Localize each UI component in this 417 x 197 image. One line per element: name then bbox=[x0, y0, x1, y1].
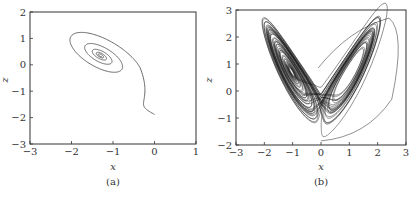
y-tick-label: −1 bbox=[11, 86, 26, 97]
x-tick-label: −2 bbox=[64, 146, 79, 157]
ticks-a: −3−2−101−3−2−1012 bbox=[11, 7, 199, 158]
x-tick-label: 2 bbox=[374, 147, 380, 158]
caption-b: (b) bbox=[314, 176, 328, 187]
x-tick-label: 0 bbox=[151, 146, 157, 157]
y-tick-label: 2 bbox=[226, 32, 232, 43]
y-tick-label: 1 bbox=[20, 33, 26, 44]
y-tick-label: 0 bbox=[226, 86, 232, 97]
y-tick-label: 3 bbox=[226, 5, 232, 16]
panel-a: −3−2−101−3−2−1012 x z (a) bbox=[0, 7, 199, 188]
y-tick-label: −3 bbox=[11, 139, 26, 150]
trajectory-a bbox=[70, 32, 155, 114]
panel-b: −3−2−10123−2−10123 x z (b) bbox=[203, 3, 409, 187]
x-tick-label: 0 bbox=[318, 147, 324, 158]
caption-a: (a) bbox=[106, 176, 120, 187]
x-tick-label: −1 bbox=[106, 146, 121, 157]
trajectory-b bbox=[262, 3, 398, 141]
x-tick-label: 3 bbox=[403, 147, 409, 158]
xlabel-a: x bbox=[110, 161, 116, 172]
plot-a-frame bbox=[30, 12, 196, 144]
y-tick-label: −2 bbox=[217, 140, 232, 151]
y-tick-label: 0 bbox=[20, 59, 26, 70]
y-tick-label: 1 bbox=[226, 59, 232, 70]
x-tick-label: 1 bbox=[193, 146, 199, 157]
y-tick-label: −2 bbox=[11, 112, 26, 123]
x-tick-label: −2 bbox=[257, 147, 272, 158]
figure: −3−2−101−3−2−1012 x z (a) −3−2−10123−2−1… bbox=[0, 0, 417, 197]
y-tick-label: 2 bbox=[20, 7, 26, 18]
y-tick-label: −1 bbox=[217, 113, 232, 124]
x-tick-label: −1 bbox=[285, 147, 300, 158]
xlabel-b: x bbox=[318, 161, 324, 172]
ticks-b: −3−2−10123−2−10123 bbox=[217, 5, 409, 159]
ylabel-a: z bbox=[0, 77, 10, 84]
ylabel-b: z bbox=[203, 77, 214, 84]
x-tick-label: 1 bbox=[346, 147, 352, 158]
